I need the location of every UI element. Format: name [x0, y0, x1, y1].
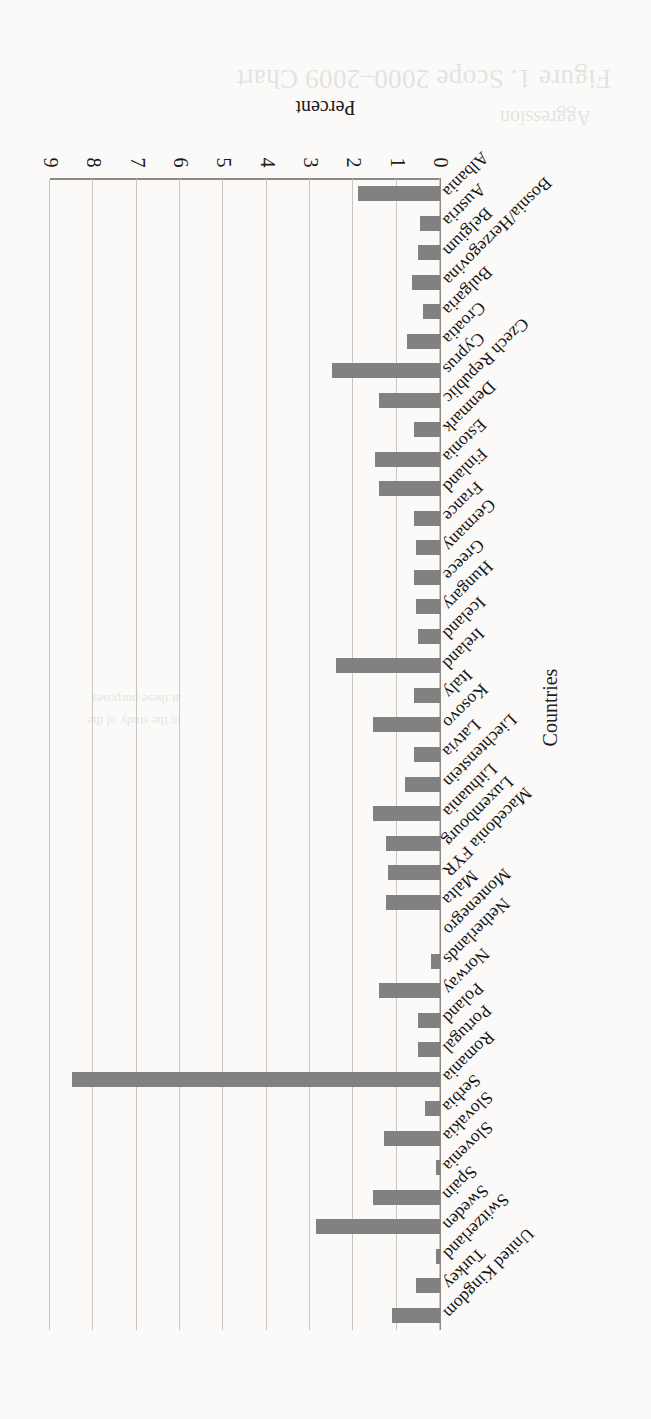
tick-label-9: 9 [39, 158, 62, 168]
tick-label-7: 7 [125, 158, 148, 168]
rotated-figure: 0123456789 Percent AlbaniaAustriaBelgium… [0, 0, 651, 1419]
value-axis-title: Percent [0, 96, 651, 119]
tick-label-5: 5 [212, 158, 235, 168]
bar [384, 1131, 440, 1146]
bar-series [50, 179, 440, 1330]
tick-label-3: 3 [299, 158, 322, 168]
bar [414, 422, 440, 437]
bar [379, 481, 440, 496]
tick-label-4: 4 [255, 158, 278, 168]
bar [317, 1219, 441, 1234]
bar [416, 540, 440, 555]
value-axis-ticks: 0123456789 [50, 140, 440, 174]
bar [425, 1101, 440, 1116]
bar [412, 275, 440, 290]
bar [336, 658, 440, 673]
tick-label-2: 2 [342, 158, 365, 168]
bar [373, 1190, 440, 1205]
bar [332, 363, 440, 378]
bar [379, 983, 440, 998]
bar [431, 954, 440, 969]
bar [392, 1308, 440, 1323]
bar-chart: 0123456789 Percent AlbaniaAustriaBelgium… [0, 0, 651, 1419]
bar [418, 1013, 440, 1028]
bar [375, 452, 440, 467]
bar [386, 895, 440, 910]
bar [72, 1072, 440, 1087]
bar [418, 245, 440, 260]
bar [388, 865, 440, 880]
bar [373, 806, 440, 821]
bar [408, 334, 441, 349]
tick-label-0: 0 [429, 158, 452, 168]
tick-label-6: 6 [169, 158, 192, 168]
bar [379, 393, 440, 408]
tick-label-1: 1 [385, 158, 408, 168]
bar [421, 216, 441, 231]
category-axis-title: Countries [539, 669, 562, 747]
bar [423, 304, 440, 319]
bar [416, 599, 440, 614]
category-axis-labels: AlbaniaAustriaBelgiumBosnia/HerzegovinaB… [440, 179, 651, 1330]
bar [418, 1042, 440, 1057]
bar [358, 186, 440, 201]
bar [414, 688, 440, 703]
plot-area [50, 179, 440, 1330]
bar [416, 1278, 440, 1293]
bar [414, 747, 440, 762]
bar [373, 718, 440, 733]
tick-label-8: 8 [82, 158, 105, 168]
bar [414, 570, 440, 585]
bar [405, 777, 440, 792]
bar [414, 511, 440, 526]
bar [386, 836, 440, 851]
bar [418, 629, 440, 644]
